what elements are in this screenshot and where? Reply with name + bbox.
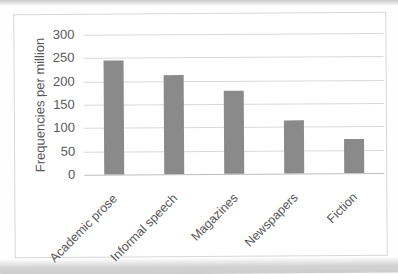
bar-informal-speech xyxy=(164,75,185,175)
y-tick-label-200: 200 xyxy=(41,74,75,88)
bar-magazines xyxy=(224,91,245,174)
bar-newspapers xyxy=(284,121,304,174)
y-tick-label-50: 50 xyxy=(41,144,75,158)
scan-artifact-top-edge xyxy=(0,0,398,6)
y-tick-label-300: 300 xyxy=(40,28,74,42)
bar-fiction xyxy=(344,139,364,173)
bar-academic-prose xyxy=(104,61,125,175)
x-category-label-fiction: Fiction xyxy=(324,190,360,226)
chart-frame: Frequencies per million 0501001502002503… xyxy=(13,12,387,258)
y-tick-label-100: 100 xyxy=(41,121,75,135)
y-tick-label-250: 250 xyxy=(40,51,74,65)
x-category-label-newspapers: Newspapers xyxy=(242,190,301,249)
y-tick-label-150: 150 xyxy=(41,98,75,112)
x-category-label-magazines: Magazines xyxy=(188,191,240,244)
scanned-bar-chart-image: Frequencies per million 0501001502002503… xyxy=(0,0,398,274)
y-tick-label-0: 0 xyxy=(41,168,75,182)
